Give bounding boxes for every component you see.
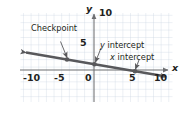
y-tick-label-5: 5 (80, 38, 87, 48)
y-tick-label-10: 10 (99, 8, 112, 18)
graph-canvas (0, 0, 182, 114)
x-tick-label--5: -5 (54, 73, 65, 83)
x-tick-label-5: 5 (129, 73, 136, 83)
x-tick-label--10: -10 (23, 73, 40, 83)
x-tick-label-10: 10 (154, 73, 167, 83)
callout-y-intercept-text: intercept (105, 40, 144, 50)
x-tick-label-0: 0 (85, 73, 92, 83)
point-checkpoint (65, 57, 70, 62)
callout-checkpoint: Checkpoint (31, 24, 77, 32)
y-axis-name: y (86, 4, 92, 14)
coordinate-graph-figure: -10 -5 0 5 10 5 10 y x Checkpoint y inte… (0, 0, 182, 114)
callout-x-intercept: x intercept (110, 53, 154, 61)
x-axis-name: x (172, 63, 178, 73)
callout-x-intercept-text: intercept (115, 52, 154, 62)
callout-y-intercept: y intercept (100, 41, 144, 49)
point-y-intercept (92, 62, 97, 67)
